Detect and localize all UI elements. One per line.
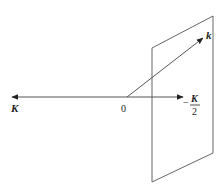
vector-k-arrow [127, 38, 203, 97]
label-minus-sign: − [183, 97, 189, 108]
diagram-canvas: K 0 − K 2 k [0, 0, 224, 190]
label-vector-k: k [206, 29, 212, 41]
label-left-K: K [10, 102, 19, 114]
label-origin: 0 [121, 103, 126, 114]
label-fraction-numerator: K [190, 93, 199, 104]
label-fraction-denominator: 2 [192, 106, 197, 117]
